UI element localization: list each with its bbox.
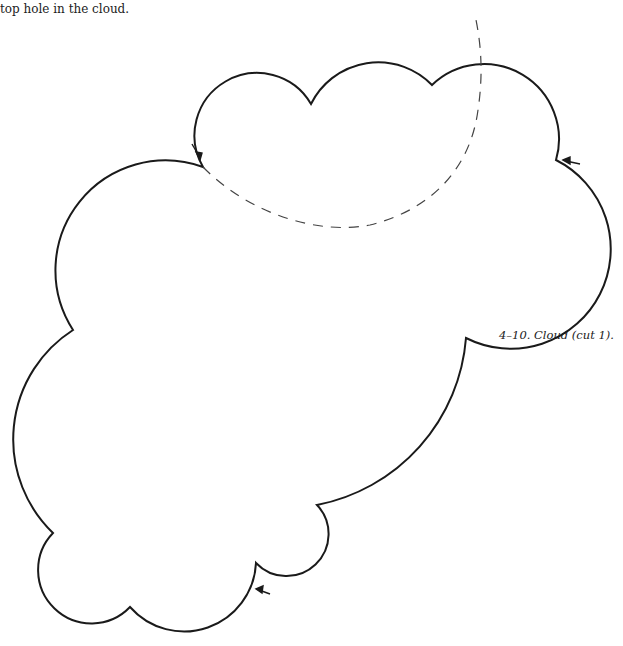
arrow-icon: [192, 144, 202, 160]
arrow-icon: [256, 586, 270, 594]
cloud-diagram: [0, 0, 623, 646]
dashed-cut-line: [203, 20, 481, 228]
arrow-icon: [563, 157, 580, 164]
cloud-outline: [13, 62, 611, 631]
